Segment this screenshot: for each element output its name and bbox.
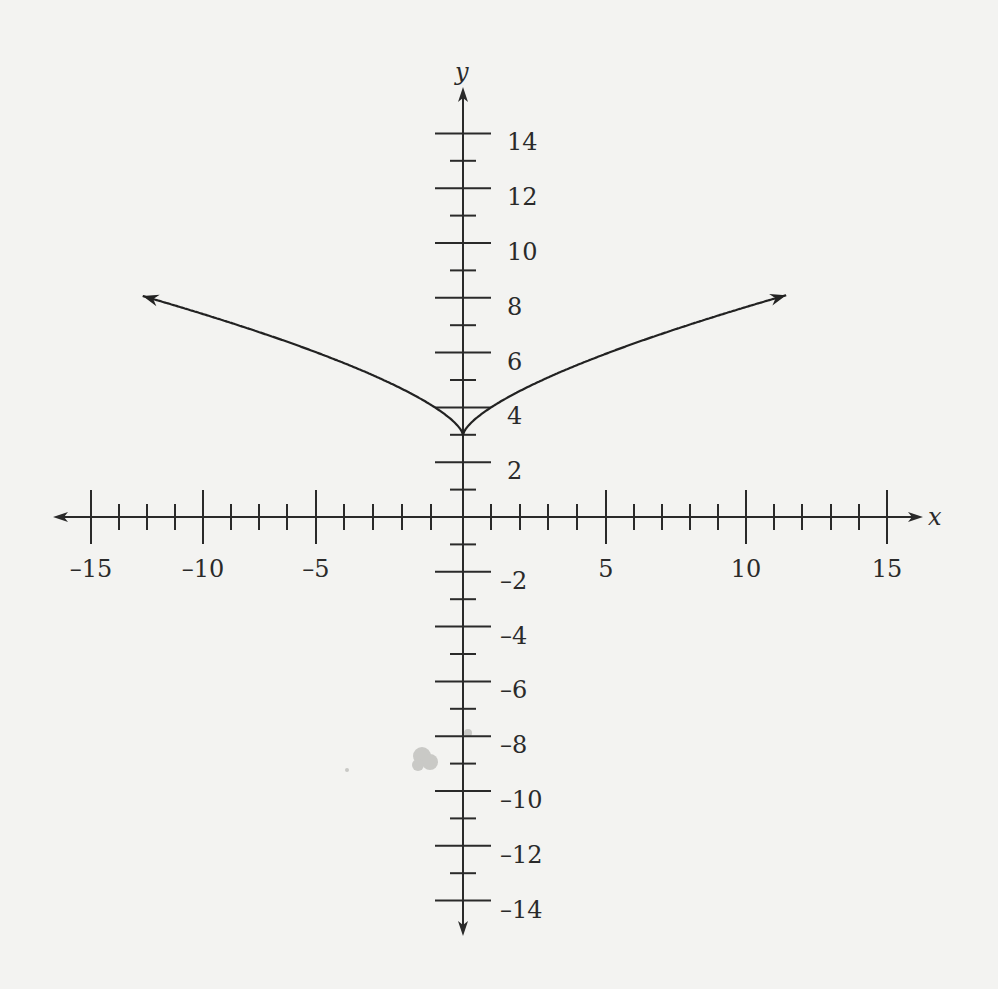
x-tick-label: 5 [598, 555, 613, 583]
y-tick-labels: 1412108642–2–4–6–8–10–12–14 [500, 128, 543, 923]
y-tick-label: –6 [500, 676, 527, 704]
function-graph: x y –15–10–551015 1412108642–2–4–6–8–10–… [0, 0, 998, 989]
y-tick-label: 12 [507, 183, 538, 211]
y-tick-label: –8 [500, 731, 527, 759]
y-tick-label: –2 [500, 567, 527, 595]
y-tick-label: –14 [500, 896, 543, 924]
y-tick-label: –4 [500, 622, 527, 650]
x-tick-label: –5 [302, 555, 329, 583]
x-tick-label: 10 [731, 555, 762, 583]
y-tick-label: 6 [507, 348, 522, 376]
x-tick-label: –10 [182, 555, 225, 583]
y-tick-label: 8 [507, 293, 522, 321]
y-tick-label: 2 [507, 457, 522, 485]
y-tick-label: 10 [507, 238, 538, 266]
y-tick-label: –12 [500, 841, 543, 869]
y-tick-label: –10 [500, 786, 543, 814]
y-axis-label: y [454, 58, 469, 86]
y-tick-label: 4 [507, 402, 522, 430]
y-tick-label: 14 [507, 128, 538, 156]
function-curve [143, 295, 787, 435]
x-tick-label: 15 [872, 555, 903, 583]
axes: x y [53, 58, 942, 936]
x-tick-label: –15 [70, 555, 113, 583]
x-axis-label: x [928, 503, 942, 531]
x-tick-labels: –15–10–551015 [70, 555, 903, 583]
